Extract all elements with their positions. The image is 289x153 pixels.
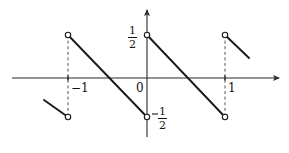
fraction-numerator: 1 [158,106,167,118]
y-tick-label-half: 1 2 [128,25,137,50]
origin-label: 0 [136,82,144,94]
fraction-numerator: 1 [128,25,137,37]
fraction-denominator: 2 [158,120,167,132]
plot-canvas [0,0,289,153]
fraction-denominator: 2 [128,39,137,51]
negative-one-half-group: 1 2 [158,106,167,131]
sawtooth-graph-figure: 1 2 1 2 −1 1 0 [0,0,289,153]
open-point-0-half [144,32,149,37]
fraction-one-half: 1 2 [128,25,137,50]
segment-far-left-partial [44,100,68,117]
open-point-neg1-half [65,32,70,37]
open-point-1-half [222,32,227,37]
open-point-0-neghalf [144,114,149,119]
segment-far-right-partial [225,35,249,58]
y-tick-label-neg-half: 1 2 [158,106,167,131]
fraction-neg-one-half: 1 2 [158,106,167,131]
x-tick-label-one: 1 [228,82,236,94]
x-tick-label-neg-one: −1 [71,82,89,94]
open-point-neg1-neghalf [65,114,70,119]
open-point-1-neghalf [222,114,227,119]
